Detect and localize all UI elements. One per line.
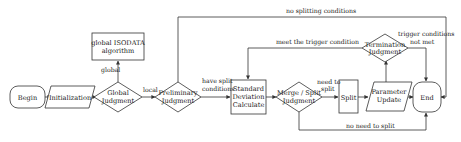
global-isodata-line2: algorithm (102, 47, 135, 55)
global-judgment-line1: Global (107, 89, 129, 97)
std-dev-line2: Deviation (233, 93, 266, 101)
initialization-label: Initialization (49, 94, 92, 102)
edge-label-meet-trigger: meet the trigger condition (276, 38, 359, 46)
edge-label-trigger-not-met-2: not met (410, 38, 435, 45)
edge-label-trigger-not-met-1: trigger conditions (398, 30, 454, 38)
split-label: Split (341, 94, 357, 102)
edge-label-have-split-1: have split (202, 77, 233, 85)
merge-split-line2: Judgment (282, 97, 316, 105)
edge-term-end (408, 48, 426, 81)
parameter-update-line2: Update (377, 96, 402, 104)
parameter-update-line1: Parameter (371, 88, 407, 96)
edge-label-global: global (101, 66, 120, 74)
edge-label-local: local (143, 86, 158, 93)
edge-label-have-split-2: conditions (202, 85, 234, 92)
std-dev-line3: Calculate (233, 101, 265, 109)
preliminary-judgment-line2: Judgment (161, 97, 195, 105)
global-judgment-line2: Judgment (101, 97, 135, 105)
preliminary-judgment-line1: Preliminary (158, 89, 197, 97)
edge-label-need-split-1: need to (317, 78, 341, 85)
merge-split-line1: Merge / Split (277, 89, 321, 97)
global-isodata-line1: global ISODATA (91, 39, 145, 47)
end-label: End (420, 94, 434, 102)
edge-label-no-need-split: no need to split (346, 122, 395, 130)
std-dev-line1: Standard (233, 85, 265, 93)
edge-label-no-splitting: no splitting conditions (286, 7, 356, 15)
edge-label-need-split-2: split (321, 85, 335, 93)
edge-term-stddev (248, 48, 362, 79)
termination-judgment-line2: Judgment (368, 48, 402, 56)
begin-label: Begin (18, 94, 38, 102)
flowchart-canvas: Begin Initialization Global Judgment glo… (0, 0, 461, 142)
